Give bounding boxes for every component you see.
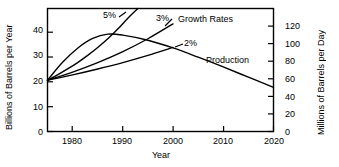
plot-frame — [48, 9, 274, 132]
plot-area — [0, 0, 339, 167]
y-axis-left-ticks — [48, 32, 54, 131]
series-curve-2-percent — [48, 47, 174, 80]
chart-figure: Billions of Barrels per Year Millions of… — [0, 0, 339, 167]
series-curve-3-percent — [48, 24, 174, 80]
x-axis-ticks — [72, 126, 273, 132]
y-axis-right-ticks — [268, 26, 274, 131]
